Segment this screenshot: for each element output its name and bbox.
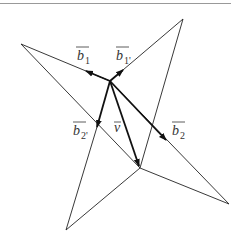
label-b2: b 2 — [172, 122, 185, 141]
label-v: v — [114, 120, 121, 135]
svg-text:2': 2' — [81, 130, 88, 141]
vector-b1 — [86, 71, 110, 81]
svg-text:v: v — [114, 120, 121, 135]
vector-b2-prime — [97, 81, 110, 127]
label-b1-prime: b 1' — [116, 47, 131, 66]
vector-diagram: b 1 b 1' b 2 b 2' v — [0, 0, 242, 242]
svg-text:1': 1' — [124, 55, 131, 66]
edge-bottom-b2p — [66, 127, 97, 230]
svg-text:b: b — [172, 123, 179, 138]
edge-top-lower — [140, 19, 183, 168]
edge-bottom-lower — [66, 168, 140, 230]
svg-text:2: 2 — [180, 130, 185, 141]
edge-lower-right — [140, 168, 229, 204]
svg-text:b: b — [77, 48, 84, 63]
label-b2-prime: b 2' — [73, 122, 88, 141]
vector-b1-prime — [110, 70, 123, 81]
svg-text:1: 1 — [85, 55, 90, 66]
svg-text:b: b — [116, 48, 123, 63]
svg-text:b: b — [73, 123, 80, 138]
label-b1: b 1 — [76, 47, 90, 66]
